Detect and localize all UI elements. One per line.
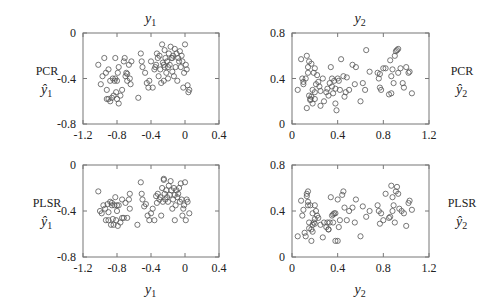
data-point <box>173 65 178 70</box>
data-point <box>388 58 393 63</box>
data-point <box>367 69 372 74</box>
y-tick-label: 0 <box>70 26 76 40</box>
y-tick-label: 0 <box>70 158 76 172</box>
scatter-points <box>96 42 192 106</box>
data-point <box>122 55 127 60</box>
row-label-prediction: ŷ2 <box>454 214 467 231</box>
panel-title: y2 <box>353 11 366 28</box>
data-point <box>381 218 386 223</box>
data-point <box>302 230 307 235</box>
x-tick-label: 1.2 <box>422 128 437 142</box>
data-point <box>147 218 152 223</box>
data-point <box>340 192 345 197</box>
y-tick-label: -0.4 <box>57 72 76 86</box>
data-point <box>342 205 347 210</box>
data-point <box>150 206 155 211</box>
x-tick-label: -0.4 <box>142 261 161 275</box>
data-point <box>336 225 341 230</box>
x-axis-label: y1 <box>143 282 156 299</box>
scatter-points <box>96 176 192 228</box>
data-point <box>339 57 344 62</box>
data-point <box>138 180 143 185</box>
data-point <box>178 65 183 70</box>
row-label-method: PLSR <box>448 196 477 210</box>
data-point <box>295 234 300 239</box>
data-point <box>172 218 177 223</box>
data-point <box>318 103 323 108</box>
data-point <box>104 87 109 92</box>
data-point <box>301 207 306 212</box>
row-label-prediction: ŷ2 <box>454 82 467 99</box>
data-point <box>328 195 333 200</box>
data-point <box>182 42 187 47</box>
data-point <box>182 70 187 75</box>
row-label-method: PCR <box>36 64 59 78</box>
data-point <box>156 74 161 79</box>
x-axis-label: y2 <box>353 282 366 299</box>
panel-plsr-y2: 00.40.81.200.40.8y2PLSRŷ2 <box>270 158 476 299</box>
data-point <box>168 179 173 184</box>
data-point <box>341 74 346 79</box>
scatter-points <box>295 46 414 113</box>
panel-title: y1 <box>143 11 156 28</box>
data-point <box>106 210 111 215</box>
row-label-prediction: ŷ1 <box>39 82 52 99</box>
x-tick-label: 0 <box>182 261 188 275</box>
data-point <box>102 55 107 60</box>
data-point <box>106 67 111 72</box>
data-point <box>183 218 188 223</box>
data-point <box>404 223 409 228</box>
data-point <box>390 195 395 200</box>
data-point <box>364 214 369 219</box>
data-point <box>334 108 339 113</box>
data-point <box>344 218 349 223</box>
data-point <box>138 51 143 56</box>
data-point <box>136 95 141 100</box>
data-point <box>115 70 120 75</box>
data-point <box>398 66 403 71</box>
data-point <box>367 208 372 213</box>
data-point <box>305 70 310 75</box>
data-point <box>353 197 358 202</box>
data-point <box>344 75 349 80</box>
data-point <box>383 191 388 196</box>
data-point <box>180 213 185 218</box>
data-point <box>363 87 368 92</box>
x-tick-label: 0 <box>182 128 188 142</box>
plot-frame <box>292 33 429 124</box>
x-tick-label: 0.4 <box>212 128 227 142</box>
data-point <box>295 87 300 92</box>
data-point <box>116 65 121 70</box>
data-point <box>152 218 157 223</box>
data-point <box>300 213 305 218</box>
data-point <box>389 74 394 79</box>
data-point <box>125 215 130 220</box>
data-point <box>140 65 145 70</box>
y-tick-label: -0.8 <box>57 250 76 264</box>
data-point <box>98 82 103 87</box>
data-point <box>360 81 365 86</box>
data-point <box>187 211 192 216</box>
data-point <box>392 220 397 225</box>
data-point <box>126 197 131 202</box>
x-tick-label: 0.8 <box>376 261 391 275</box>
y-tick-label: 0.8 <box>270 26 285 40</box>
x-tick-label: 0.4 <box>212 261 227 275</box>
data-point <box>335 197 340 202</box>
row-label-prediction: ŷ1 <box>39 214 52 231</box>
x-tick-label: -0.8 <box>108 128 127 142</box>
data-point <box>304 106 309 111</box>
data-point <box>299 198 304 203</box>
data-point <box>391 203 396 208</box>
x-tick-label: 0.4 <box>330 128 345 142</box>
data-point <box>390 208 395 213</box>
data-point <box>364 48 369 53</box>
data-point <box>337 218 342 223</box>
data-point <box>303 234 308 239</box>
data-point <box>388 214 393 219</box>
data-point <box>143 70 148 75</box>
data-point <box>407 69 412 74</box>
x-tick-label: -1.2 <box>74 261 93 275</box>
y-tick-label: 0 <box>279 117 285 131</box>
y-tick-label: -0.8 <box>57 117 76 131</box>
